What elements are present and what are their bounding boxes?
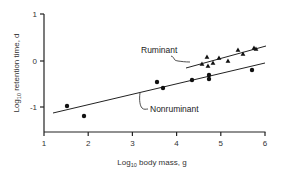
data-point [161, 86, 165, 90]
data-point [207, 73, 211, 77]
ruminant-label: Ruminant [141, 45, 178, 55]
data-point [206, 64, 211, 68]
x-tick-4: 4 [174, 139, 179, 148]
axes [40, 14, 266, 136]
data-point [217, 56, 222, 60]
data-point [82, 114, 86, 118]
data-point [226, 59, 231, 63]
y-tick-minus1: -1 [30, 103, 38, 112]
x-tick-3: 3 [130, 139, 135, 148]
nonruminant-leader-line [140, 93, 148, 109]
scatter-chart: 1 0 -1 1 2 3 4 5 6 Log10 body mass, g Lo… [0, 0, 283, 175]
data-point [236, 48, 241, 52]
data-point [250, 68, 254, 72]
data-point [155, 80, 159, 84]
x-tick-2: 2 [86, 139, 91, 148]
x-tick-5: 5 [219, 139, 224, 148]
nonruminant-label: Nonruminant [150, 104, 199, 114]
data-point [205, 55, 210, 59]
data-point [190, 78, 194, 82]
x-tick-1: 1 [42, 139, 47, 148]
y-axis-title: Log10 retention time, d [12, 33, 22, 112]
x-tick-labels: 1 2 3 4 5 6 [42, 139, 268, 148]
y-tick-0: 0 [33, 57, 38, 66]
x-tick-6: 6 [263, 139, 268, 148]
data-point [65, 104, 69, 108]
y-tick-1: 1 [33, 10, 38, 19]
x-axis-title: Log10 body mass, g [117, 158, 186, 168]
data-point [207, 77, 211, 81]
ruminant-leader-line [171, 56, 190, 62]
y-tick-labels: 1 0 -1 [30, 10, 38, 112]
